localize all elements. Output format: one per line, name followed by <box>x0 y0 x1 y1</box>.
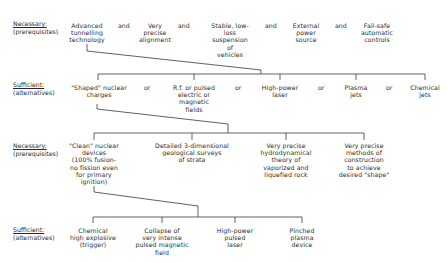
connector-and: and <box>265 22 277 29</box>
level3-heading: Necessary: <box>13 142 58 150</box>
node-chemical-jets: Chemical jets <box>405 84 445 98</box>
level2-subheading: (alternatives) <box>13 89 55 97</box>
connector-or: or <box>386 84 392 91</box>
level3-label: Necessary: (prerequisites) <box>13 142 58 157</box>
node-stable-suspension: Stable, low- loss suspension of vehicles <box>200 22 260 58</box>
level1-subheading: (prerequisites) <box>13 28 58 36</box>
connector-or: or <box>144 84 150 91</box>
node-plasma-jets: Plasma jets <box>338 84 374 98</box>
node-shaped-nuclear-charges: "Shaped" nuclear charges <box>66 84 132 98</box>
node-advanced-tunnelling: Advanced tunnelling technology <box>62 22 112 44</box>
node-high-power-laser: High-power laser <box>258 84 302 98</box>
node-chemical-high-explosive: Chemical high explosive (trigger) <box>66 227 120 249</box>
level2-label: Sufficient: (alternatives) <box>13 81 55 96</box>
node-pulsed-magnetic-collapse: Collapse of very intense pulsed magnetic… <box>130 227 194 256</box>
relevance-tree-diagram: Necessary: (prerequisites) Advanced tunn… <box>0 0 447 263</box>
node-external-power: External power source <box>285 22 327 44</box>
connector-and: and <box>118 22 130 29</box>
node-rf-pulsed-fields: R.f. or pulsed electric or magnetic fiel… <box>168 84 220 113</box>
node-construction-methods: Very precise methods of construction to … <box>333 142 395 178</box>
level1-label: Necessary: (prerequisites) <box>13 20 58 35</box>
connector-and: and <box>178 22 190 29</box>
level2-heading: Sufficient: <box>13 81 55 89</box>
node-geological-surveys: Detailed 3-dimensional geological survey… <box>150 142 234 164</box>
level3-subheading: (prerequisites) <box>13 150 58 158</box>
level4-subheading: (alternatives) <box>13 234 55 242</box>
level4-label: Sufficient: (alternatives) <box>13 226 55 241</box>
level1-heading: Necessary: <box>13 20 58 28</box>
connector-or: or <box>235 84 241 91</box>
node-failsafe-controls: Fail-safe automatic controls <box>354 22 400 44</box>
connector-and: and <box>335 22 347 29</box>
level4-heading: Sufficient: <box>13 226 55 234</box>
node-precise-alignment: Very precise alignment <box>132 22 178 44</box>
connector-or: or <box>318 84 324 91</box>
node-pinched-plasma-device: Pinched plasma device <box>284 227 320 249</box>
node-hydrodynamical-theory: Very precise hydrodynamical theory of va… <box>254 142 318 178</box>
node-high-power-pulsed-laser: High-power pulsed laser <box>213 227 257 249</box>
node-clean-nuclear-devices: "Clean" nuclear devices (100% fusion- no… <box>64 142 124 185</box>
